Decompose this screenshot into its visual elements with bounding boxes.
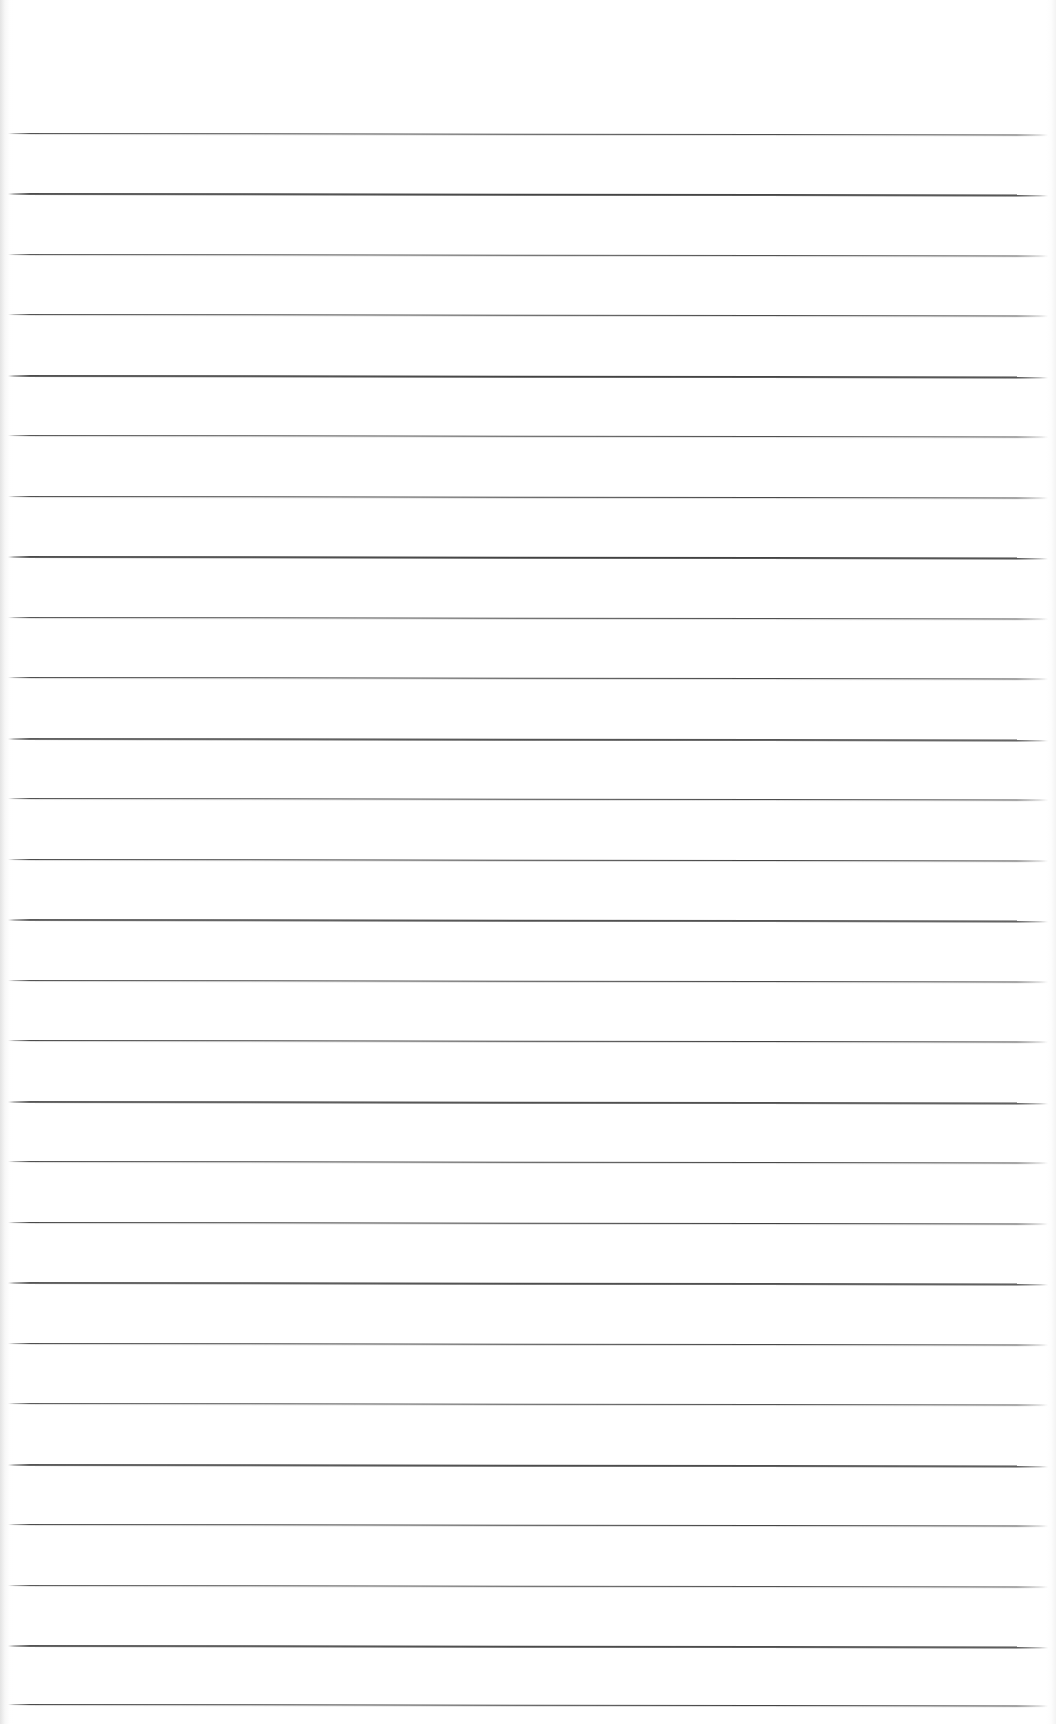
ruled-line-stroke: [8, 1101, 1048, 1104]
ruled-line-stroke: [8, 919, 1048, 922]
ruled-line: [0, 1464, 1056, 1467]
ruled-line: [0, 677, 1056, 680]
ruled-line: [0, 1524, 1056, 1527]
ruled-line: [0, 133, 1056, 136]
ruled-line-stroke: [8, 375, 1048, 378]
ruled-line: [0, 919, 1056, 922]
ruled-line-stroke: [8, 193, 1048, 196]
ruled-line-stroke: [8, 435, 1048, 438]
ruled-line-stroke: [8, 496, 1048, 499]
ruled-line-stroke: [8, 1645, 1048, 1648]
ruled-line: [0, 1403, 1056, 1406]
ruled-line-stroke: [8, 980, 1048, 983]
ruled-line: [0, 738, 1056, 741]
ruled-line: [0, 254, 1056, 257]
ruled-line: [0, 556, 1056, 559]
ruled-line-stroke: [8, 1585, 1048, 1588]
ruled-line: [0, 314, 1056, 317]
ruled-line: [0, 496, 1056, 499]
ruled-line-stroke: [8, 133, 1048, 136]
ruled-line: [0, 617, 1056, 620]
ruled-line-stroke: [8, 254, 1048, 257]
ruled-line-stroke: [8, 859, 1048, 862]
ruled-line: [0, 435, 1056, 438]
ruled-line: [0, 375, 1056, 378]
ruled-line: [0, 1704, 1056, 1707]
ruled-line-stroke: [8, 798, 1048, 801]
ruled-line-stroke: [8, 1161, 1048, 1164]
ruled-line: [0, 1585, 1056, 1588]
ruled-line-stroke: [8, 1524, 1048, 1527]
ruled-line: [0, 1645, 1056, 1648]
ruled-line-stroke: [8, 677, 1048, 680]
page-top-margin: [0, 0, 1056, 128]
ruled-line-stroke: [8, 1464, 1048, 1467]
ruled-line-stroke: [8, 1704, 1048, 1707]
ruled-line-stroke: [8, 1343, 1048, 1346]
ruled-line: [0, 1282, 1056, 1285]
ruled-line-stroke: [8, 1040, 1048, 1043]
ruled-line-stroke: [8, 1222, 1048, 1225]
ruled-line-stroke: [8, 1403, 1048, 1406]
ruled-line: [0, 1222, 1056, 1225]
ruled-line: [0, 980, 1056, 983]
ruled-line-stroke: [8, 314, 1048, 317]
ruled-line-stroke: [8, 617, 1048, 620]
ruled-line: [0, 1161, 1056, 1164]
ruled-line: [0, 193, 1056, 196]
ruled-line: [0, 859, 1056, 862]
ruled-line: [0, 798, 1056, 801]
ruled-line: [0, 1040, 1056, 1043]
ruled-line-stroke: [8, 1282, 1048, 1285]
notebook-page: [0, 0, 1056, 1724]
ruled-line: [0, 1343, 1056, 1346]
ruled-line-stroke: [8, 556, 1048, 559]
ruled-line-stroke: [8, 738, 1048, 741]
ruled-line: [0, 1101, 1056, 1104]
